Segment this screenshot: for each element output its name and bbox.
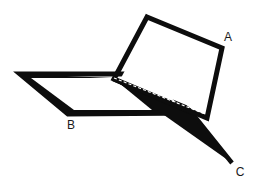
vertex-label-b: B [67, 118, 75, 132]
vertex-label-a: A [224, 30, 232, 44]
geometry-figure-canvas: A B C [0, 0, 254, 191]
figure-svg: A B C [0, 0, 254, 191]
vertex-label-c: C [236, 165, 245, 179]
